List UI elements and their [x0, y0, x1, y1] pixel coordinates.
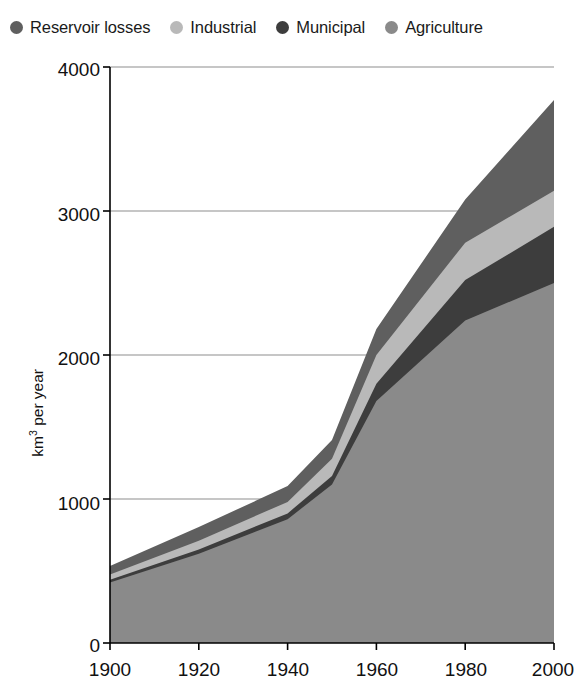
x-tick-label-1980: 1980 [431, 660, 501, 679]
y-tick-label-0: 0 [32, 636, 100, 655]
legend-label-municipal: Municipal [296, 19, 365, 36]
legend-item-industrial[interactable]: Industrial [170, 19, 256, 36]
x-tick-label-1920: 1920 [164, 660, 234, 679]
legend-label-agriculture: Agriculture [405, 19, 483, 36]
x-tick-label-1960: 1960 [342, 660, 412, 679]
y-tick-label-4000: 4000 [32, 60, 100, 79]
plot-area: 4000 3000 2000 1000 0 1900 1920 1940 196… [0, 52, 569, 652]
circle-marker-icon-reservoir-losses [10, 21, 23, 34]
y-axis-title-exponent: 3 [27, 430, 39, 436]
x-tick-label-1900: 1900 [75, 660, 145, 679]
y-axis-title: km3 per year [28, 338, 46, 488]
legend-item-municipal[interactable]: Municipal [276, 19, 365, 36]
stacked-area-series [110, 100, 554, 643]
chart-legend: Reservoir losses Industrial Municipal Ag… [0, 14, 569, 40]
x-tick-label-1940: 1940 [253, 660, 323, 679]
legend-label-reservoir-losses: Reservoir losses [30, 19, 150, 36]
x-tick-label-2000: 2000 [518, 660, 578, 679]
y-axis-title-prefix: km [29, 436, 46, 457]
legend-label-industrial: Industrial [190, 19, 256, 36]
y-axis-title-suffix: per year [29, 369, 46, 430]
y-tick-label-3000: 3000 [32, 205, 100, 224]
circle-marker-icon-municipal [276, 21, 289, 34]
legend-item-agriculture[interactable]: Agriculture [385, 19, 483, 36]
circle-marker-icon-agriculture [385, 21, 398, 34]
legend-item-reservoir-losses[interactable]: Reservoir losses [10, 19, 150, 36]
y-tick-label-1000: 1000 [32, 494, 100, 513]
circle-marker-icon-industrial [170, 21, 183, 34]
